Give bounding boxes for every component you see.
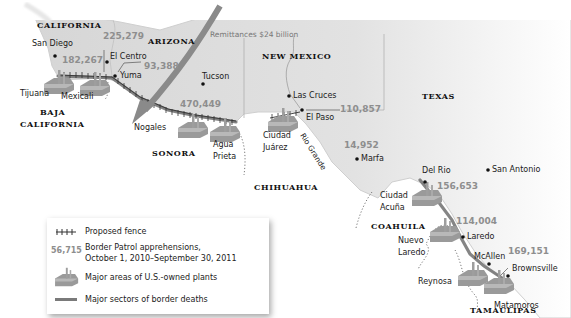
city-label-reynosa: Reynosa xyxy=(418,278,452,286)
apprehension-sample: 56,715 xyxy=(51,246,82,255)
city-label-brownsville: Brownsville xyxy=(512,265,558,273)
city-label-ciudad-acuna-2: Acuña xyxy=(380,204,405,212)
city-label-nuevo-laredo: Nuevo xyxy=(398,237,424,245)
city-label-marfa: Marfa xyxy=(361,155,384,163)
state-label-coahuila: COAHUILA xyxy=(371,222,425,230)
apprehension-del-rio: 156,653 xyxy=(437,182,478,191)
state-label-baja-california-2: CALIFORNIA xyxy=(20,120,85,128)
city-label-mcallen: McAllen xyxy=(474,253,505,261)
city-label-matamoros: Matamoros xyxy=(494,302,539,310)
city-label-mexicali: Mexicali xyxy=(61,93,93,101)
state-label-california: CALIFORNIA xyxy=(37,21,102,29)
city-label-ciudad-juarez: Ciudad xyxy=(263,132,291,140)
city-label-las-cruces: Las Cruces xyxy=(293,92,337,100)
gray-bar-icon xyxy=(55,297,77,302)
city-label-san-diego: San Diego xyxy=(32,40,73,48)
city-label-tucson: Tucson xyxy=(202,73,229,81)
apprehension-el-paso: 110,857 xyxy=(340,105,381,114)
apprehension-yuma: 93,388 xyxy=(144,62,179,71)
city-label-tijuana: Tijuana xyxy=(20,90,49,98)
apprehension-el-centro: 225,279 xyxy=(103,32,144,41)
city-label-laredo: Laredo xyxy=(467,233,494,241)
city-label-ciudad-juarez-2: Juárez xyxy=(263,144,288,152)
map-legend: Proposed fence 56,715 Border Patrol appr… xyxy=(47,218,269,314)
state-label-texas: TEXAS xyxy=(422,92,455,100)
apprehension-rio-grande-valley: 169,151 xyxy=(508,247,549,256)
city-label-nuevo-laredo-2: Laredo xyxy=(398,249,425,257)
state-label-baja-california: BAJA xyxy=(40,108,65,116)
state-label-chihuahua: CHIHUAHUA xyxy=(254,183,318,191)
city-label-agua-prieta-2: Prieta xyxy=(213,153,236,161)
apprehension-laredo: 114,004 xyxy=(456,217,497,226)
state-label-sonora: SONORA xyxy=(152,149,195,157)
city-label-yuma: Yuma xyxy=(120,72,142,80)
city-label-ciudad-acuna: Ciudad xyxy=(380,192,408,200)
city-label-el-paso: El Paso xyxy=(306,114,334,122)
apprehension-tucson: 470,449 xyxy=(180,100,221,109)
city-label-del-rio: Del Rio xyxy=(422,167,451,175)
state-label-new-mexico: NEW MEXICO xyxy=(262,52,331,60)
city-label-el-centro: El Centro xyxy=(110,53,147,61)
city-label-agua-prieta: Agua xyxy=(213,141,234,149)
plant-icon xyxy=(53,267,81,287)
city-label-san-antonio: San Antonio xyxy=(492,166,540,174)
apprehension-san-diego: 182,267 xyxy=(62,56,103,65)
state-label-arizona: ARIZONA xyxy=(148,37,195,45)
remittances-label: Remittances $24 billion xyxy=(210,31,298,39)
fence-icon xyxy=(55,228,77,236)
city-label-nogales: Nogales xyxy=(134,124,166,132)
apprehension-marfa: 14,952 xyxy=(344,141,379,150)
